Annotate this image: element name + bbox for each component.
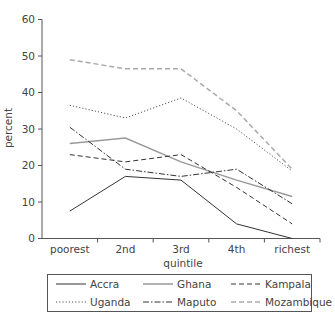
legend-item-accra: Accra: [56, 275, 119, 293]
legend-item-maputo: Maputo: [143, 293, 216, 311]
legend: AccraGhanaKampalaUgandaMaputoMozambique: [47, 274, 312, 312]
legend-label: Uganda: [90, 296, 131, 308]
series-ghana-line: [70, 138, 292, 196]
legend-item-kampala: Kampala: [231, 275, 311, 293]
y-axis-title: percent: [2, 108, 14, 148]
y-tick-label: 10: [22, 196, 35, 208]
x-tick-label: 4th: [228, 243, 245, 255]
x-tick-label: richest: [274, 243, 310, 255]
series-uganda-line: [70, 98, 292, 171]
x-tick-label: poorest: [50, 243, 90, 255]
legend-label: Ghana: [177, 278, 211, 290]
legend-swatch-icon: [143, 298, 173, 306]
series-mozambique-line: [70, 60, 292, 170]
x-tick-label: 3rd: [172, 243, 189, 255]
legend-item-ghana: Ghana: [143, 275, 211, 293]
legend-swatch-icon: [56, 298, 86, 306]
legend-label: Maputo: [177, 296, 216, 308]
series-maputo-line: [70, 127, 292, 204]
series-accra-line: [70, 176, 292, 238]
legend-label: Accra: [90, 278, 119, 290]
series-kampala-line: [70, 155, 292, 224]
legend-swatch-icon: [231, 280, 261, 288]
axes: 0102030405060poorest2nd3rd4thrichest: [22, 13, 320, 255]
y-tick-label: 30: [22, 123, 35, 135]
legend-label: Kampala: [265, 278, 311, 290]
legend-label: Mozambique: [265, 296, 332, 308]
legend-swatch-icon: [56, 280, 86, 288]
legend-item-mozambique: Mozambique: [231, 293, 332, 311]
x-axis-title: quintile: [163, 257, 202, 269]
y-tick-label: 60: [22, 13, 35, 25]
legend-swatch-icon: [231, 298, 261, 306]
y-tick-label: 50: [22, 50, 35, 62]
y-tick-label: 0: [28, 232, 35, 244]
y-tick-label: 40: [22, 86, 35, 98]
series-lines: [70, 60, 292, 239]
legend-swatch-icon: [143, 280, 173, 288]
legend-item-uganda: Uganda: [56, 293, 131, 311]
x-tick-label: 2nd: [115, 243, 135, 255]
y-tick-label: 20: [22, 159, 35, 171]
